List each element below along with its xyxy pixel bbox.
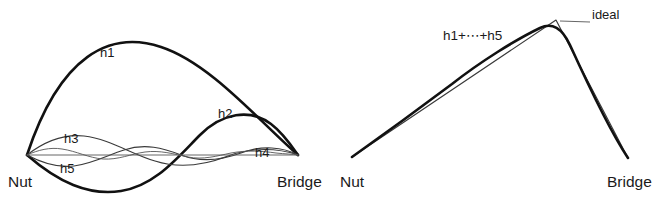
label-sum: h1+⋯+h5 bbox=[443, 28, 502, 43]
harmonics-figure: h1 h2 h3 h4 h5 Nut Bridge h1+⋯+h5 ideal … bbox=[0, 0, 663, 203]
label-bridge-right: Bridge bbox=[607, 173, 652, 190]
figure-root: h1 h2 h3 h4 h5 Nut Bridge h1+⋯+h5 ideal … bbox=[0, 0, 663, 203]
harmonic-modes-panel: h1 h2 h3 h4 h5 Nut Bridge bbox=[8, 42, 322, 192]
label-nut-left: Nut bbox=[8, 173, 33, 190]
label-h3: h3 bbox=[64, 131, 78, 146]
label-nut-right: Nut bbox=[340, 173, 365, 190]
label-h2: h2 bbox=[218, 106, 232, 121]
label-h1: h1 bbox=[100, 45, 114, 60]
superposition-panel: h1+⋯+h5 ideal Nut Bridge bbox=[340, 7, 652, 190]
curve-sum bbox=[352, 26, 628, 158]
ideal-leader-line bbox=[560, 21, 590, 22]
label-h5: h5 bbox=[60, 161, 74, 176]
label-h4: h4 bbox=[255, 145, 269, 160]
label-ideal: ideal bbox=[592, 7, 620, 22]
label-bridge-left: Bridge bbox=[277, 173, 322, 190]
